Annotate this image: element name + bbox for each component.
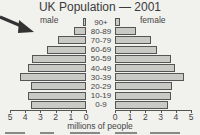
- female-bar: [115, 55, 171, 63]
- female-bar: [115, 82, 172, 90]
- male-bar: [32, 55, 86, 63]
- male-bar: [28, 64, 87, 72]
- chart-title: UK Population — 2001: [0, 0, 200, 14]
- female-bar: [115, 101, 168, 109]
- age-group-label: 40-49: [86, 64, 116, 73]
- age-group-label: 50-59: [86, 54, 116, 63]
- female-bar: [115, 73, 184, 81]
- male-bar: [58, 36, 87, 44]
- right-x-axis: [115, 110, 191, 111]
- age-group-label: 20-29: [86, 82, 116, 91]
- age-group-label: 10-19: [86, 91, 116, 100]
- male-bar: [20, 73, 86, 81]
- male-bar: [31, 101, 87, 109]
- female-bar: [115, 92, 171, 100]
- male-bar: [47, 46, 86, 54]
- age-group-label: 70-79: [86, 36, 116, 45]
- male-bar: [28, 92, 87, 100]
- age-group-label: 0-9: [86, 100, 116, 109]
- age-group-label: 30-39: [86, 73, 116, 82]
- age-group-label: 90+: [86, 18, 116, 27]
- arrow-icon: [0, 13, 36, 35]
- female-label: female: [140, 15, 166, 25]
- age-group-label: 60-69: [86, 45, 116, 54]
- age-group-label: 80-89: [86, 27, 116, 36]
- male-bar: [31, 82, 87, 90]
- cropped-text-row: [0, 131, 200, 135]
- female-bar: [115, 46, 157, 54]
- left-x-axis: [10, 110, 86, 111]
- male-label: male: [40, 15, 58, 25]
- female-bar: [115, 27, 136, 35]
- x-axis-label: millions of people: [0, 121, 200, 131]
- female-bar: [115, 64, 175, 72]
- female-bar: [115, 36, 151, 44]
- male-bar: [74, 27, 86, 35]
